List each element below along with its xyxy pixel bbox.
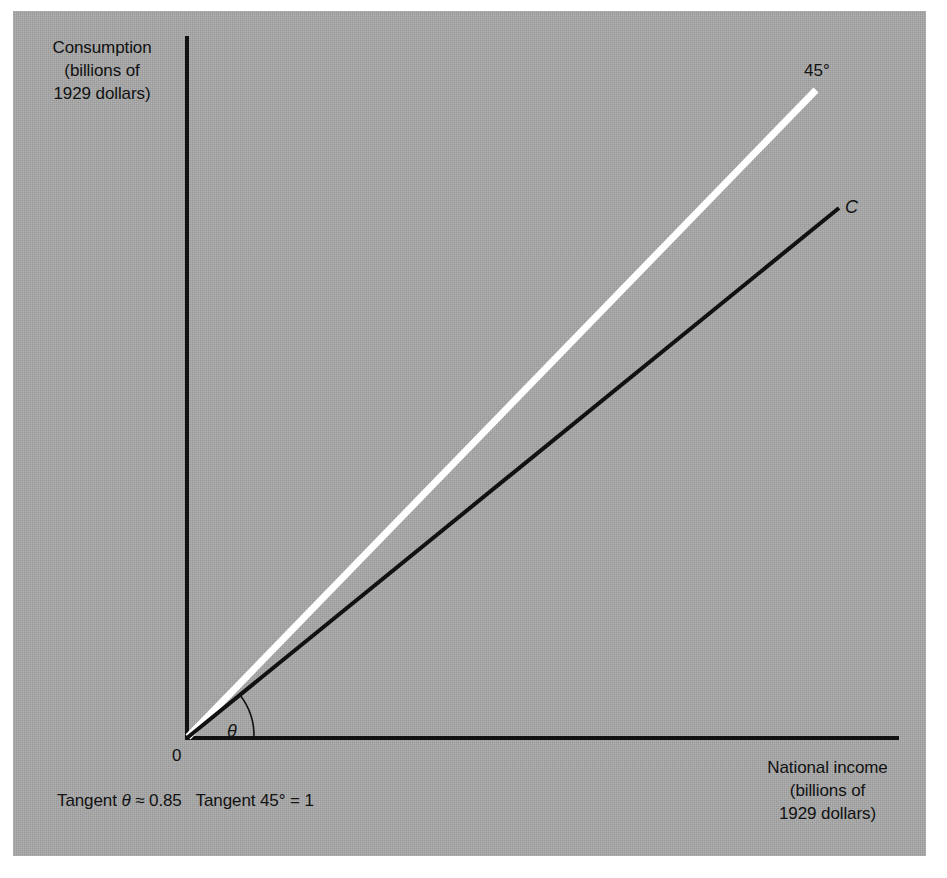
figure-caption: Tangent θ ≈ 0.85 Tangent 45° = 1 [57,791,314,811]
theta-angle-arc [240,695,254,738]
figure-panel: Consumption (billions of 1929 dollars) N… [13,11,926,856]
theta-angle-label: θ [227,721,237,742]
x-axis-label: National income (billions of 1929 dollar… [740,756,915,825]
caption-tangent-theta-value: ≈ 0.85 [131,791,182,810]
consumption-curve-label: C [845,197,858,218]
origin-label: 0 [172,746,181,766]
caption-tangent-theta-prefix: Tangent [57,791,121,810]
caption-spacer [182,791,196,810]
forty-five-degree-line-label: 45° [804,61,830,81]
forty-five-degree-line [188,90,816,737]
caption-theta-symbol: θ [121,791,130,810]
plot-area [13,11,926,856]
consumption-function-line [187,208,839,738]
y-axis-label: Consumption (billions of 1929 dollars) [37,36,167,105]
caption-tangent-45: Tangent 45° = 1 [196,791,314,810]
